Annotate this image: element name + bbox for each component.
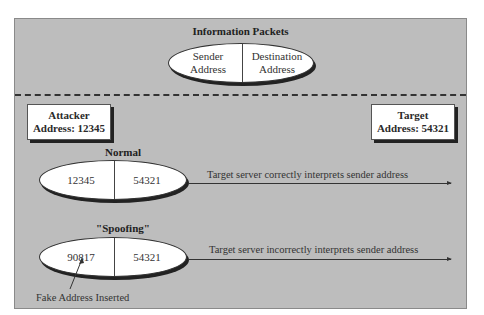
fake-address-annotation: Fake Address Inserted bbox=[36, 292, 129, 303]
sender-label-line2: Address bbox=[190, 63, 226, 76]
spoofing-arrow-label: Target server incorrectly interprets sen… bbox=[209, 244, 418, 255]
target-box: Target Address: 54321 bbox=[371, 104, 455, 140]
destination-label-line1: Destination bbox=[252, 50, 303, 63]
attacker-box: Attacker Address: 12345 bbox=[27, 104, 111, 140]
target-label: Target bbox=[398, 109, 429, 122]
spoofing-arrow bbox=[189, 259, 451, 260]
destination-label-line2: Address bbox=[252, 63, 303, 76]
spoofing-title: "Spoofing" bbox=[93, 222, 153, 234]
packet-legend-oval: SenderAddress DestinationAddress bbox=[168, 43, 314, 83]
dashed-separator bbox=[15, 94, 466, 96]
normal-sender-cell: 12345 bbox=[48, 161, 114, 199]
normal-arrow bbox=[189, 183, 451, 184]
attacker-address: Address: 12345 bbox=[33, 122, 105, 135]
sender-address-cell: SenderAddress bbox=[175, 44, 241, 82]
target-address: Address: 54321 bbox=[377, 122, 449, 135]
normal-destination-cell: 54321 bbox=[115, 161, 179, 199]
information-packets-title: Information Packets bbox=[15, 25, 466, 37]
spoofing-packet-oval: 90817 54321 bbox=[39, 237, 187, 277]
destination-address-cell: DestinationAddress bbox=[243, 44, 311, 82]
spoofing-destination-cell: 54321 bbox=[115, 238, 179, 276]
normal-packet-oval: 12345 54321 bbox=[39, 160, 187, 200]
normal-arrow-label: Target server correctly interprets sende… bbox=[207, 169, 408, 180]
normal-title: Normal bbox=[93, 146, 153, 158]
diagram-panel: Information Packets SenderAddress Destin… bbox=[14, 18, 467, 309]
fake-address-pointer-icon bbox=[65, 255, 95, 291]
sender-label-line1: Sender bbox=[190, 50, 226, 63]
attacker-label: Attacker bbox=[48, 109, 90, 122]
